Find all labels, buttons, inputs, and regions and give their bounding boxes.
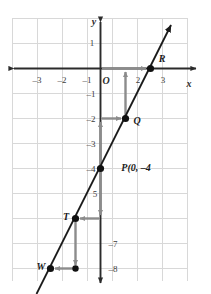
xtick-label--3: –3	[33, 75, 42, 85]
origin-label: O	[102, 75, 109, 86]
point-t	[72, 215, 79, 222]
xtick-label-3: 3	[161, 75, 166, 85]
x-axis-label: x	[187, 78, 192, 89]
point-r	[147, 65, 154, 72]
point-w	[47, 265, 54, 272]
coordinate-plane-figure: –3 –2 –1 2 3 1 –1 –2 –3 –4 5 –7 –8 O x y…	[0, 0, 211, 294]
ytick-label--5: 5	[93, 189, 98, 199]
xtick-label--1: –1	[83, 75, 92, 85]
helper-dot-tw	[72, 265, 78, 271]
point-label-w: W	[37, 261, 46, 272]
ytick-label-1: 1	[90, 38, 95, 48]
ytick-label--7: –7	[109, 239, 118, 249]
xtick-label-2: 2	[136, 75, 141, 85]
xtick-label--2: –2	[58, 75, 67, 85]
point-label-r: R	[159, 53, 166, 64]
ytick-label--2: –2	[87, 114, 96, 124]
point-label-p: P(0, –4	[121, 162, 150, 173]
ytick-label--4: –4	[87, 164, 96, 174]
point-label-q: Q	[133, 115, 140, 126]
point-p	[97, 165, 104, 172]
point-label-t: T	[63, 211, 69, 222]
y-axis-label: y	[92, 16, 96, 27]
ytick-label--8: –8	[109, 264, 118, 274]
point-q	[122, 115, 129, 122]
plot-canvas	[0, 0, 211, 294]
ytick-label--1: –1	[87, 89, 96, 99]
ytick-label--3: –3	[87, 139, 96, 149]
